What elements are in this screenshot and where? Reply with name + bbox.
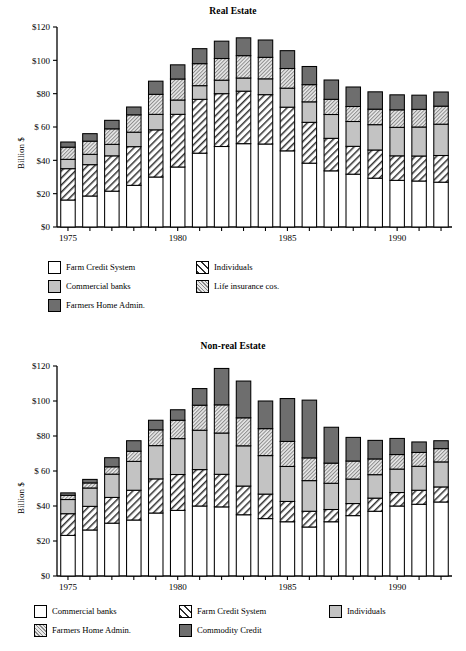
- bar-segment-individuals: [127, 461, 141, 490]
- y-tick-label: $40: [37, 156, 51, 166]
- bar-segment-life-insurance-cos: [368, 109, 382, 125]
- bar-segment-life-insurance-cos: [236, 56, 250, 78]
- legend-swatch-lightgray: [48, 280, 61, 293]
- bar-segment-individuals: [324, 138, 338, 171]
- bar-segment-commercial-banks: [83, 154, 97, 164]
- bar-segment-life-insurance-cos: [346, 107, 360, 122]
- legend-label: Individuals: [347, 607, 386, 616]
- bar-segment-individuals: [170, 114, 184, 167]
- bar-segment-commercial-banks: [346, 122, 360, 147]
- legend-swatch-darkgray: [48, 299, 61, 312]
- bar-segment-individuals: [105, 156, 119, 191]
- legend-swatch-finehatch: [196, 280, 209, 293]
- bar-segment-farm-credit-system: [390, 493, 404, 506]
- bar-segment-farm-credit-system: [346, 504, 360, 516]
- y-axis-label-non-real-estate: Billion $: [16, 482, 26, 514]
- bar-segment-farm-credit-system: [280, 501, 294, 521]
- y-tick-label: $80: [37, 89, 51, 99]
- bar-segment-farm-credit-system: [236, 144, 250, 227]
- bar-segment-individuals: [105, 474, 119, 497]
- bar-segment-commodity-credit: [368, 440, 382, 459]
- bar-segment-life-insurance-cos: [149, 94, 163, 114]
- bar-segment-commercial-banks: [302, 527, 316, 576]
- bar-segment-commercial-banks: [236, 78, 250, 91]
- bar-segment-individuals: [390, 469, 404, 492]
- bar-segment-commercial-banks: [368, 125, 382, 150]
- bar-segment-farm-credit-system: [192, 153, 206, 227]
- bar-segment-individuals: [390, 156, 404, 181]
- legend-row: Farmers Home Admin.: [48, 296, 336, 315]
- bar-1984: [258, 40, 272, 227]
- legend-swatch-white: [48, 261, 61, 274]
- bar-segment-farmers-home-admin: [302, 458, 316, 481]
- bar-segment-commercial-banks: [214, 507, 228, 576]
- y-tick-label: $0: [41, 571, 51, 581]
- bar-segment-commercial-banks: [61, 159, 75, 168]
- y-tick-label: $80: [37, 431, 51, 441]
- bar-segment-individuals: [61, 169, 75, 200]
- bar-segment-commercial-banks: [324, 115, 338, 139]
- bar-segment-commodity-credit: [302, 400, 316, 458]
- y-tick-label: $20: [37, 189, 51, 199]
- bar-1986: [302, 400, 316, 576]
- legend-label: Farmers Home Admin.: [52, 626, 131, 635]
- bar-segment-commodity-credit: [236, 381, 250, 418]
- x-tick-label-1985: 1985: [278, 582, 297, 592]
- bar-segment-individuals: [149, 130, 163, 177]
- bar-segment-individuals: [214, 433, 228, 474]
- bar-segment-commodity-credit: [434, 441, 448, 449]
- bar-segment-farmers-home-admin: [149, 430, 163, 446]
- bar-1981: [192, 389, 206, 576]
- bar-segment-commodity-credit: [258, 401, 272, 429]
- bar-segment-farm-credit-system: [127, 185, 141, 227]
- bar-segment-life-insurance-cos: [61, 147, 75, 159]
- bar-1975: [61, 142, 75, 227]
- bar-segment-farmers-home-admin: [170, 420, 184, 438]
- chart-title-non-real-estate: Non-real Estate: [0, 335, 466, 354]
- bar-segment-farmers-home-admin: [83, 483, 97, 488]
- bar-1985: [280, 399, 294, 576]
- bar-1978: [127, 107, 141, 227]
- legend-label: Farmers Home Admin.: [66, 301, 145, 310]
- bar-segment-commercial-banks: [390, 127, 404, 156]
- bar-1989: [368, 92, 382, 227]
- bar-segment-farmers-home-admin: [105, 120, 119, 129]
- y-tick-label: $ 60: [34, 466, 50, 476]
- bar-segment-life-insurance-cos: [324, 99, 338, 114]
- bar-segment-life-insurance-cos: [412, 109, 426, 127]
- legend-row: Farmers Home Admin.Commodity Credit: [34, 621, 449, 640]
- bar-segment-farmers-home-admin: [236, 418, 250, 446]
- bar-segment-farmers-home-admin: [61, 142, 75, 147]
- bar-segment-farmers-home-admin: [236, 38, 250, 56]
- bar-segment-commercial-banks: [192, 506, 206, 576]
- bar-1988: [346, 437, 360, 576]
- bar-segment-commercial-banks: [412, 127, 426, 156]
- bar-segment-life-insurance-cos: [434, 106, 448, 124]
- bar-segment-farm-credit-system: [346, 174, 360, 227]
- bar-segment-individuals: [149, 446, 163, 479]
- bar-segment-individuals: [170, 439, 184, 475]
- bar-segment-farmers-home-admin: [214, 41, 228, 58]
- bar-segment-farmers-home-admin: [368, 459, 382, 475]
- bar-segment-farm-credit-system: [412, 490, 426, 504]
- y-axis-label-real-estate: Billion $: [16, 137, 26, 169]
- bar-1992: [434, 92, 448, 227]
- x-tick-label-1980: 1980: [169, 233, 188, 243]
- bar-1978: [127, 441, 141, 576]
- bar-segment-individuals: [258, 95, 272, 144]
- x-tick-label-1990: 1990: [388, 233, 407, 243]
- y-tick-label: $ 60: [34, 122, 50, 132]
- bar-1979: [149, 420, 163, 576]
- bar-segment-life-insurance-cos: [302, 85, 316, 102]
- bar-1990: [390, 95, 404, 227]
- plot-area-real-estate: Billion $ $0$20$40$ 60$80$100$1201975198…: [0, 19, 466, 249]
- bar-segment-farm-credit-system: [412, 181, 426, 227]
- bar-1985: [280, 51, 294, 227]
- legend-label: Commercial banks: [52, 607, 117, 616]
- y-tick-label: $120: [32, 361, 51, 371]
- bar-segment-life-insurance-cos: [258, 57, 272, 78]
- legend-item-commercial-banks: Commercial banks: [48, 280, 196, 293]
- bar-segment-farmers-home-admin: [214, 405, 228, 433]
- bar-segment-farmers-home-admin: [434, 92, 448, 106]
- bar-segment-life-insurance-cos: [214, 59, 228, 81]
